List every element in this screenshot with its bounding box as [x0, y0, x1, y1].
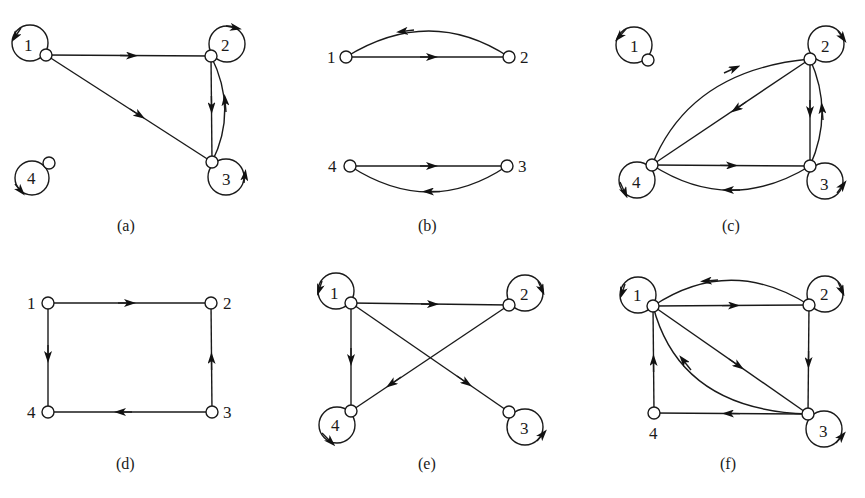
node-label-d1: 1	[27, 294, 36, 313]
node-c3	[804, 160, 816, 172]
arrow-c-2-4	[736, 102, 746, 109]
node-label-b4: 4	[328, 157, 337, 176]
node-a4	[43, 157, 55, 169]
loop-arrow-a3	[244, 175, 245, 183]
caption-a: (a)	[117, 217, 135, 235]
arrow-e-2-4	[391, 377, 401, 384]
node-label-d2: 2	[223, 294, 232, 313]
edge-b-2-1	[346, 31, 509, 57]
arrow-c-3-2	[822, 108, 823, 120]
node-label-a4: 4	[27, 169, 36, 188]
node-label-b1: 1	[327, 48, 336, 67]
caption-e: (e)	[418, 455, 436, 473]
caption-b: (b)	[418, 217, 437, 235]
node-label-b2: 2	[520, 48, 529, 67]
panel-f: 1 2 3 4 (f)	[620, 276, 843, 473]
caption-d: (d)	[116, 455, 135, 473]
node-b1	[340, 51, 352, 63]
edge-f-2-1	[653, 280, 809, 306]
node-d4	[42, 406, 54, 418]
node-label-f1: 1	[633, 286, 642, 305]
node-c4	[646, 159, 658, 171]
node-f4	[648, 407, 660, 419]
node-f1	[647, 300, 659, 312]
panel-b: 1 2 3 4 (b)	[327, 30, 529, 235]
node-label-e1: 1	[330, 284, 339, 303]
node-d1	[42, 297, 54, 309]
arrow-c-4-2	[724, 68, 735, 73]
node-d2	[205, 297, 217, 309]
node-e3	[503, 406, 515, 418]
arrow-f-2-1	[706, 280, 718, 281]
arrow-b-2-1	[402, 30, 414, 32]
node-label-a2: 2	[221, 36, 230, 55]
node-label-d3: 3	[223, 403, 232, 422]
node-b3	[501, 160, 513, 172]
arrow-a-3-2	[225, 100, 226, 112]
edge-f-4-1	[653, 306, 654, 413]
edge-c-2-4	[652, 59, 810, 165]
node-label-c4: 4	[632, 173, 641, 192]
panel-e: 1 2 3 4 (e)	[318, 273, 543, 473]
figure-canvas: 1 2 3 4 (a) 1 2 3 4 (b)	[0, 0, 865, 498]
arrow-f-1-3	[729, 359, 739, 366]
arrow-e-1-3	[457, 376, 467, 383]
panel-d: 1 2 3 4 (d)	[27, 294, 232, 473]
node-f2	[803, 299, 815, 311]
loop-arrow-a4	[15, 184, 21, 191]
edge-b-3-4	[350, 166, 507, 192]
node-label-f4: 4	[649, 424, 658, 443]
node-b2	[503, 51, 515, 63]
node-a3	[206, 156, 218, 168]
edge-a-3-2	[211, 56, 225, 162]
edge-c-3-4	[652, 165, 810, 190]
caption-c: (c)	[722, 217, 740, 235]
node-label-f3: 3	[819, 422, 828, 441]
node-label-f2: 2	[820, 285, 829, 304]
node-a1	[40, 49, 52, 61]
loop-arrow-e3	[537, 434, 543, 441]
edge-c-3-2	[810, 59, 822, 166]
panel-a: 1 2 3 4 (a)	[12, 25, 245, 235]
node-label-e3: 3	[520, 419, 529, 438]
node-e4	[345, 405, 357, 417]
node-label-c1: 1	[630, 37, 639, 56]
edge-d-3-2	[211, 303, 212, 412]
node-label-c2: 2	[821, 37, 830, 56]
panel-c: 1 2 3 4 (c)	[616, 26, 844, 235]
node-e1	[345, 297, 357, 309]
node-label-b3: 3	[518, 157, 527, 176]
node-b4	[344, 160, 356, 172]
node-label-a1: 1	[24, 36, 33, 55]
node-e2	[503, 299, 515, 311]
caption-f: (f)	[720, 455, 736, 473]
node-a2	[205, 50, 217, 62]
loop-arrow-a2	[226, 26, 236, 28]
loop-arrow-f3	[836, 436, 842, 443]
arrow-a-1-3	[130, 109, 140, 116]
node-label-e4: 4	[331, 416, 340, 435]
edge-a-1-3	[46, 55, 212, 162]
node-label-e2: 2	[520, 285, 529, 304]
loop-arrow-c2	[838, 31, 843, 38]
node-label-a3: 3	[222, 170, 231, 189]
node-f3	[802, 408, 814, 420]
node-c2	[804, 53, 816, 65]
edge-a-2-3	[211, 56, 212, 162]
node-label-d4: 4	[27, 403, 36, 422]
node-c1	[642, 54, 654, 66]
node-label-c3: 3	[820, 175, 829, 194]
node-d3	[206, 406, 218, 418]
